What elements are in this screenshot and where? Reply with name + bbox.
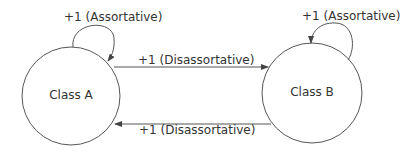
edge-self-loop-b (311, 23, 352, 60)
node-label-class-b: Class B (290, 85, 334, 99)
edge-label-self-a: +1 (Assortative) (64, 10, 162, 24)
edge-self-loop-a (73, 25, 114, 61)
edge-label-a-to-b: +1 (Disassortative) (138, 53, 254, 67)
edge-label-b-to-a: +1 (Disassortative) (139, 123, 255, 137)
edge-label-self-b: +1 (Assortative) (302, 9, 400, 23)
node-label-class-a: Class A (49, 88, 93, 102)
